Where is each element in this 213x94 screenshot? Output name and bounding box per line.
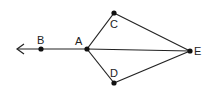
segment-CE — [114, 13, 190, 51]
label-B: B — [37, 34, 44, 46]
point-E — [187, 48, 192, 53]
point-D — [111, 80, 116, 85]
segment-DE — [114, 51, 190, 83]
segment-AE — [87, 49, 190, 51]
geometry-diagram: B A C D E — [0, 0, 213, 94]
label-E: E — [194, 45, 201, 57]
point-A — [84, 46, 89, 51]
point-B — [38, 46, 43, 51]
label-C: C — [110, 18, 118, 30]
label-A: A — [75, 35, 83, 47]
point-C — [111, 10, 116, 15]
label-D: D — [110, 67, 118, 79]
